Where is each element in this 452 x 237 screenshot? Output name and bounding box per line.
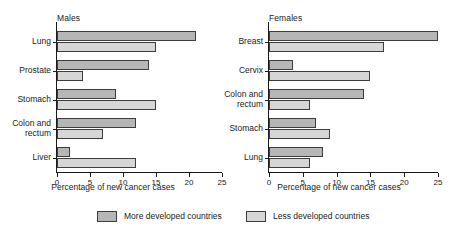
plot-area-males: 0510152025 LungProstateStomachColon andr… bbox=[57, 27, 222, 172]
x-axis-label-females: Percentage of new cancer cases bbox=[226, 182, 452, 192]
x-axis-males bbox=[56, 172, 222, 173]
category-label-females-0: Breast bbox=[238, 37, 263, 47]
bar-females-1-0 bbox=[269, 60, 293, 70]
x-axis-females bbox=[268, 172, 438, 173]
category-label-males-4: Liver bbox=[33, 153, 51, 163]
category-label-males-2: Stomach bbox=[17, 95, 51, 105]
legend-label-less-developed: Less developed countries bbox=[273, 210, 369, 222]
bar-males-2-1 bbox=[57, 100, 156, 110]
bar-males-4-1 bbox=[57, 158, 136, 168]
legend: More developed countries Less developed … bbox=[0, 210, 452, 230]
legend-label-more-developed: More developed countries bbox=[124, 210, 222, 222]
bar-females-1-1 bbox=[269, 71, 370, 81]
bar-males-3-1 bbox=[57, 129, 103, 139]
category-label-males-3: Colon andrectum bbox=[12, 119, 51, 138]
bar-females-0-0 bbox=[269, 31, 438, 41]
category-label-females-4: Lung bbox=[244, 153, 263, 163]
x-tick-males-10 bbox=[123, 173, 124, 177]
x-tick-males-0 bbox=[57, 173, 58, 177]
bar-males-3-0 bbox=[57, 118, 136, 128]
category-label-females-1: Cervix bbox=[239, 66, 263, 76]
legend-swatch-less-developed bbox=[246, 211, 266, 222]
x-tick-females-25 bbox=[438, 173, 439, 177]
bar-females-3-0 bbox=[269, 118, 316, 128]
x-tick-males-5 bbox=[90, 173, 91, 177]
legend-item-less-developed: Less developed countries bbox=[246, 210, 369, 222]
chart-panel-females: Females 0510152025 BreastCervixColon and… bbox=[226, 0, 452, 200]
x-tick-females-0 bbox=[269, 173, 270, 177]
category-label-males-0: Lung bbox=[32, 37, 51, 47]
x-axis-label-males: Percentage of new cancer cases bbox=[0, 182, 226, 192]
bar-females-0-1 bbox=[269, 42, 384, 52]
x-tick-males-15 bbox=[156, 173, 157, 177]
bar-females-4-1 bbox=[269, 158, 310, 168]
x-tick-males-25 bbox=[222, 173, 223, 177]
bar-males-2-0 bbox=[57, 89, 116, 99]
cancer-incidence-figure: Males 0510152025 LungProstateStomachColo… bbox=[0, 0, 452, 237]
x-tick-females-20 bbox=[404, 173, 405, 177]
bar-females-3-1 bbox=[269, 129, 330, 139]
category-label-females-2: Colon andrectum bbox=[224, 90, 263, 109]
bar-females-4-0 bbox=[269, 147, 323, 157]
x-tick-females-10 bbox=[337, 173, 338, 177]
legend-item-more-developed: More developed countries bbox=[97, 210, 222, 222]
chart-panel-males: Males 0510152025 LungProstateStomachColo… bbox=[0, 0, 226, 200]
bar-males-4-0 bbox=[57, 147, 70, 157]
bar-females-2-1 bbox=[269, 100, 310, 110]
x-tick-females-5 bbox=[303, 173, 304, 177]
x-tick-females-15 bbox=[370, 173, 371, 177]
category-label-females-3: Stomach bbox=[229, 124, 263, 134]
chart-title-females: Females bbox=[269, 13, 302, 23]
plot-area-females: 0510152025 BreastCervixColon andrectumSt… bbox=[269, 27, 438, 172]
bar-males-1-0 bbox=[57, 60, 149, 70]
x-tick-males-20 bbox=[189, 173, 190, 177]
legend-swatch-more-developed bbox=[97, 211, 117, 222]
bar-males-1-1 bbox=[57, 71, 83, 81]
category-label-males-1: Prostate bbox=[19, 66, 51, 76]
chart-title-males: Males bbox=[57, 13, 80, 23]
bar-males-0-0 bbox=[57, 31, 196, 41]
bar-males-0-1 bbox=[57, 42, 156, 52]
bar-females-2-0 bbox=[269, 89, 364, 99]
